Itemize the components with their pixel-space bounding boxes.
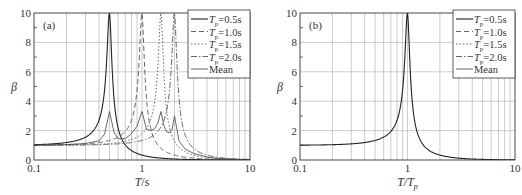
y-tick-label: 8 (292, 36, 298, 48)
x-axis-label: T/s (135, 175, 150, 189)
panel-label: (a) (43, 19, 56, 32)
legend: Tp=0.5sTp=1.0sTp=1.5sTp=2.0sMean (453, 10, 515, 78)
x-axis-label: T/Tp (397, 175, 418, 191)
y-tick-label: 4 (292, 95, 298, 107)
legend: Tp=0.5sTp=1.0sTp=1.5sTp=2.0sMean (188, 10, 250, 78)
x-tick-label: 0.1 (27, 162, 41, 174)
x-tick-label: 1 (405, 162, 411, 174)
y-tick-label: 6 (292, 66, 298, 78)
x-tick-label: 10 (510, 162, 522, 174)
y-tick-label: 10 (20, 7, 32, 19)
y-tick-label: 10 (286, 7, 298, 19)
y-tick-label: 2 (292, 125, 298, 137)
legend-entry: Mean (474, 64, 499, 75)
y-tick-label: 6 (26, 66, 32, 78)
figure: 02468100.1110βT/s(a)Tp=0.5sTp=1.0sTp=1.5… (0, 0, 522, 195)
x-tick-label: 0.1 (293, 162, 307, 174)
panel-label: (b) (309, 19, 322, 32)
y-axis-label: β (10, 80, 17, 94)
panel-a: 02468100.1110βT/s(a)Tp=0.5sTp=1.0sTp=1.5… (10, 7, 256, 189)
y-tick-label: 8 (26, 36, 32, 48)
y-axis-label: β (276, 80, 283, 94)
panel-b: 02468100.1110βT/Tp(b)Tp=0.5sTp=1.0sTp=1.… (276, 7, 521, 191)
x-tick-label: 10 (245, 162, 257, 174)
y-tick-label: 4 (26, 95, 32, 107)
x-tick-label: 1 (139, 162, 145, 174)
y-tick-label: 2 (26, 125, 32, 137)
legend-entry: Mean (209, 64, 234, 75)
